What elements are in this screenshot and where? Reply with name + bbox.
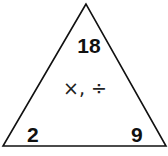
operations-label: ×, ÷ [58,79,112,98]
bottom-left-number: 2 [27,124,39,145]
bottom-right-number: 9 [131,124,143,145]
top-number: 18 [75,35,103,56]
